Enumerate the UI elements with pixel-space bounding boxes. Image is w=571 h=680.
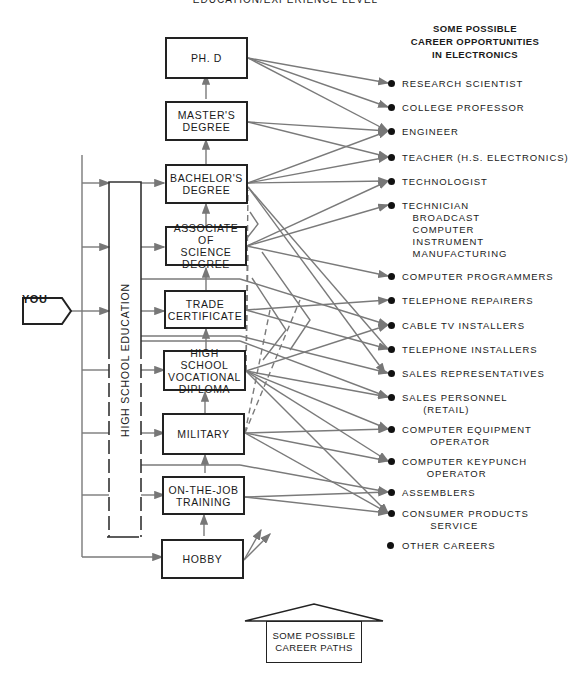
career-dot <box>388 273 395 280</box>
career-dot <box>388 322 395 329</box>
career-dot <box>387 542 394 549</box>
level-phd: PH. D <box>165 37 248 79</box>
career-assemblers: ASSEMBLERS <box>402 487 475 499</box>
section-title: EDUCATION/EXPERIENCE LEVEL <box>0 0 571 5</box>
career-dot <box>388 80 395 87</box>
career-dot <box>388 346 395 353</box>
level-trade: TRADE CERTIFICATE <box>164 290 246 329</box>
career-telephone-repairers: TELEPHONE REPAIRERS <box>402 295 533 307</box>
career-telephone-installers: TELEPHONE INSTALLERS <box>402 344 538 356</box>
level-bachelors: BACHELOR'S DEGREE <box>165 164 248 204</box>
high-school-label: HIGH SCHOOL EDUCATION <box>119 283 131 437</box>
career-dot <box>388 489 395 496</box>
career-dot <box>388 458 395 465</box>
you-node: YOU <box>22 293 47 305</box>
career-dot <box>388 104 395 111</box>
career-dot <box>388 128 395 135</box>
career-dot <box>388 178 395 185</box>
career-dot <box>388 394 395 401</box>
career-dot <box>388 202 395 209</box>
career-computer-programmers: COMPUTER PROGRAMMERS <box>402 271 554 283</box>
career-cable-tv-installers: CABLE TV INSTALLERS <box>402 320 525 332</box>
career-other-careers: OTHER CAREERS <box>402 540 496 552</box>
career-dot <box>388 510 395 517</box>
legend-career-paths: SOME POSSIBLE CAREER PATHS <box>266 621 362 663</box>
career-computer-keypunch-operator: COMPUTER KEYPUNCH OPERATOR <box>402 456 527 480</box>
opportunities-heading: SOME POSSIBLE CAREER OPPORTUNITIES IN EL… <box>385 22 565 61</box>
level-military: MILITARY <box>162 413 245 455</box>
career-college-professor: COLLEGE PROFESSOR <box>402 102 524 114</box>
career-sales-personnel: SALES PERSONNEL (RETAIL) <box>402 392 507 416</box>
career-technician: TECHNICIAN BROADCAST COMPUTER INSTRUMENT… <box>402 200 507 260</box>
high-school-education-box: HIGH SCHOOL EDUCATION <box>109 182 141 537</box>
level-associate: ASSOCIATE OF SCIENCE DEGREE <box>165 226 247 266</box>
career-dot <box>388 297 395 304</box>
level-hobby: HOBBY <box>161 539 244 579</box>
career-computer-equipment-operator: COMPUTER EQUIPMENT OPERATOR <box>402 424 532 448</box>
career-consumer-products-service: CONSUMER PRODUCTS SERVICE <box>402 508 529 532</box>
career-research-scientist: RESEARCH SCIENTIST <box>402 78 523 90</box>
career-technologist: TECHNOLOGIST <box>402 176 488 188</box>
career-engineer: ENGINEER <box>402 126 459 138</box>
career-dot <box>388 370 395 377</box>
career-sales-representatives: SALES REPRESENTATIVES <box>402 368 545 380</box>
level-vocational: HIGH SCHOOL VOCATIONAL DIPLOMA <box>163 350 246 391</box>
career-dot <box>388 426 395 433</box>
level-masters: MASTER'S DEGREE <box>165 101 248 141</box>
level-ojt: ON-THE-JOB TRAINING <box>162 476 245 515</box>
career-dot <box>388 154 395 161</box>
career-teacher: TEACHER (H.S. ELECTRONICS) <box>402 152 568 164</box>
